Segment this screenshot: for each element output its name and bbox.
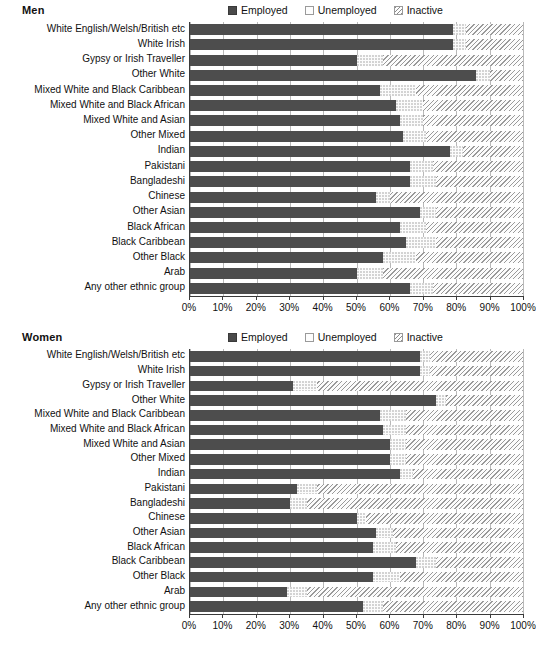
- bar-segment-inactive: [307, 498, 523, 509]
- axis-tick: [222, 614, 223, 618]
- bar-segment-employed: [190, 469, 400, 480]
- category-label: Black African: [127, 542, 185, 552]
- category-label: Mixed White and Asian: [83, 115, 185, 125]
- plot-inner-women: [190, 349, 523, 614]
- panel-header-men: Men Employed Unemployed Inactive: [0, 0, 523, 22]
- bar-row: [190, 115, 523, 126]
- bar-row: [190, 268, 523, 279]
- bar-row: [190, 161, 523, 172]
- bar-segment-inactive: [416, 252, 523, 263]
- bar-segment-inactive: [436, 176, 523, 187]
- bar-segment-employed: [190, 542, 373, 553]
- bar-row: [190, 237, 523, 248]
- bar-segment-employed: [190, 498, 290, 509]
- category-labels-women: White English/Welsh/British etcWhite Iri…: [0, 349, 189, 614]
- gridline: [523, 349, 524, 614]
- axis-tick-label: 0%: [182, 620, 196, 631]
- legend-men: Employed Unemployed Inactive: [228, 4, 443, 16]
- axis-tick-label: 100%: [510, 620, 536, 631]
- category-label: White Irish: [138, 39, 185, 49]
- chart-body-men: White English/Welsh/British etcWhite Iri…: [0, 22, 523, 296]
- bar-segment-employed: [190, 587, 287, 598]
- category-label: Pakistani: [144, 161, 185, 171]
- panel-women: Women Employed Unemployed Inactive White…: [0, 327, 523, 634]
- category-label: Mixed White and Black African: [50, 100, 185, 110]
- bar-segment-inactive: [317, 381, 523, 392]
- category-label: Chinese: [148, 512, 185, 522]
- bar-row: [190, 39, 523, 50]
- bar-segment-employed: [190, 146, 450, 157]
- axis-tick: [356, 296, 357, 300]
- bar-row: [190, 572, 523, 583]
- axis-tick: [289, 296, 290, 300]
- category-label: White English/Welsh/British etc: [47, 350, 185, 360]
- bar-segment-employed: [190, 222, 400, 233]
- axis-tick: [356, 614, 357, 618]
- bar-segment-inactive: [383, 601, 523, 612]
- bar-segment-employed: [190, 131, 403, 142]
- bar-row: [190, 498, 523, 509]
- bar-segment-inactive: [423, 100, 523, 111]
- legend-label-employed: Employed: [241, 331, 288, 343]
- bar-row: [190, 587, 523, 598]
- bar-segment-inactive: [406, 439, 523, 450]
- axis-tick-label: 70%: [413, 302, 433, 313]
- category-label: Bangladeshi: [130, 176, 185, 186]
- category-label: Arab: [164, 267, 185, 277]
- axis-tick-label: 90%: [480, 620, 500, 631]
- legend-item-inactive: Inactive: [394, 331, 443, 343]
- category-label: Mixed White and Asian: [83, 439, 185, 449]
- inactive-swatch-icon: [394, 333, 403, 342]
- x-axis-women: 0%10%20%30%40%50%60%70%80%90%100%: [189, 614, 523, 634]
- category-label: Chinese: [148, 191, 185, 201]
- category-label: White English/Welsh/British etc: [47, 24, 185, 34]
- bar-segment-unemployed: [453, 39, 466, 50]
- bar-segment-unemployed: [376, 528, 393, 539]
- bar-segment-unemployed: [390, 454, 407, 465]
- category-label: Other White: [132, 395, 185, 405]
- category-label: Black African: [127, 222, 185, 232]
- bar-row: [190, 513, 523, 524]
- bar-row: [190, 55, 523, 66]
- bar-segment-inactive: [390, 192, 523, 203]
- bar-segment-employed: [190, 55, 357, 66]
- bar-segment-inactive: [436, 207, 523, 218]
- bar-segment-inactive: [406, 454, 523, 465]
- bar-segment-unemployed: [357, 513, 367, 524]
- axis-tick-label: 80%: [446, 620, 466, 631]
- axis-tick-label: 0%: [182, 302, 196, 313]
- axis-tick-label: 50%: [346, 302, 366, 313]
- bar-row: [190, 252, 523, 263]
- bar-segment-unemployed: [293, 381, 316, 392]
- bar-segment-unemployed: [297, 484, 317, 495]
- bar-segment-unemployed: [373, 572, 400, 583]
- category-label: Pakistani: [144, 483, 185, 493]
- bar-segment-inactive: [383, 55, 523, 66]
- bar-row: [190, 351, 523, 362]
- bar-segment-employed: [190, 572, 373, 583]
- bar-segment-employed: [190, 85, 380, 96]
- bar-segment-employed: [190, 24, 453, 35]
- legend-women: Employed Unemployed Inactive: [228, 331, 443, 343]
- axis-tick-label: 100%: [510, 302, 536, 313]
- axis-tick: [389, 296, 390, 300]
- category-label: Other Mixed: [131, 130, 185, 140]
- axis-tick-label: 50%: [346, 620, 366, 631]
- bar-segment-inactive: [433, 283, 523, 294]
- bar-segment-inactive: [430, 351, 523, 362]
- bar-segment-unemployed: [396, 100, 423, 111]
- bar-row: [190, 381, 523, 392]
- category-label: Bangladeshi: [130, 498, 185, 508]
- category-label: Any other ethnic group: [84, 282, 185, 292]
- bar-segment-inactive: [466, 24, 523, 35]
- bar-segment-unemployed: [287, 587, 307, 598]
- bar-segment-employed: [190, 366, 420, 377]
- legend-item-employed: Employed: [228, 4, 288, 16]
- axis-tick-label: 40%: [313, 620, 333, 631]
- panel-title-women: Women: [22, 331, 63, 343]
- axis-tick: [423, 296, 424, 300]
- axis-tick-label: 30%: [279, 302, 299, 313]
- bar-segment-employed: [190, 237, 406, 248]
- bar-segment-unemployed: [383, 252, 416, 263]
- bar-segment-employed: [190, 381, 293, 392]
